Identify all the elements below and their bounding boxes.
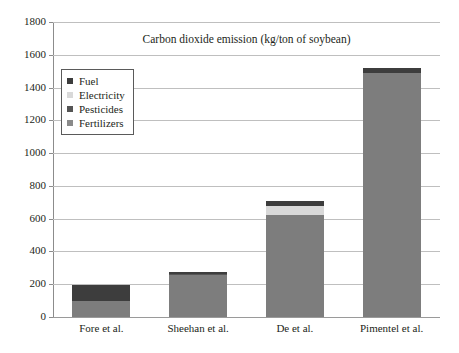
legend-label: Pesticides: [79, 103, 123, 115]
grid-line: [53, 55, 440, 56]
y-tick-mark: [49, 88, 53, 89]
chart-title: Carbon dioxide emission (kg/ton of soybe…: [53, 33, 440, 46]
bar-segment-fuel[interactable]: [72, 285, 130, 302]
y-tick-mark: [49, 55, 53, 56]
y-tick-label: 1000: [0, 147, 46, 158]
grid-line: [53, 317, 440, 318]
y-tick-label: 1800: [0, 16, 46, 27]
legend-item[interactable]: Fuel: [67, 74, 125, 88]
y-tick-label: 1200: [0, 114, 46, 125]
legend-item[interactable]: Fertilizers: [67, 116, 125, 130]
legend-label: Fuel: [79, 75, 99, 87]
legend-swatch-icon: [67, 78, 73, 84]
legend-label: Electricity: [79, 89, 125, 101]
chart-figure: 180016001400120010008006004002000 Carbon…: [0, 0, 459, 353]
bar-stack: [169, 272, 227, 317]
y-tick-label: 1400: [0, 82, 46, 93]
bar-segment-electricity[interactable]: [266, 206, 324, 215]
y-tick-label: 600: [0, 213, 46, 224]
bar-segment-fertilizers[interactable]: [169, 275, 227, 317]
bar-stack: [266, 201, 324, 317]
y-tick-label: 800: [0, 180, 46, 191]
y-tick-label: 0: [0, 311, 46, 322]
y-tick-mark: [49, 251, 53, 252]
y-tick-label: 1600: [0, 49, 46, 60]
y-tick-label: 400: [0, 245, 46, 256]
bar-segment-fertilizers[interactable]: [266, 215, 324, 317]
y-tick-mark: [49, 186, 53, 187]
y-tick-mark: [49, 120, 53, 121]
bar-segment-fertilizers[interactable]: [72, 301, 130, 317]
y-tick-mark: [49, 219, 53, 220]
legend-swatch-icon: [67, 120, 73, 126]
x-tick-label: Pimentel et al.: [322, 322, 459, 335]
legend-swatch-icon: [67, 106, 73, 112]
legend: FuelElectricityPesticidesFertilizers: [61, 69, 134, 135]
grid-line: [53, 22, 440, 23]
y-tick-mark: [49, 22, 53, 23]
y-tick-mark: [49, 284, 53, 285]
y-axis-labels: 180016001400120010008006004002000: [0, 0, 46, 353]
y-tick-mark: [49, 153, 53, 154]
y-tick-label: 200: [0, 278, 46, 289]
legend-item[interactable]: Electricity: [67, 88, 125, 102]
y-tick-mark: [49, 317, 53, 318]
legend-label: Fertilizers: [79, 117, 124, 129]
legend-swatch-icon: [67, 92, 73, 98]
bar-stack: [363, 68, 421, 317]
bar-stack: [72, 285, 130, 317]
bar-segment-fertilizers[interactable]: [363, 73, 421, 317]
plot-area: [53, 22, 440, 317]
legend-item[interactable]: Pesticides: [67, 102, 125, 116]
